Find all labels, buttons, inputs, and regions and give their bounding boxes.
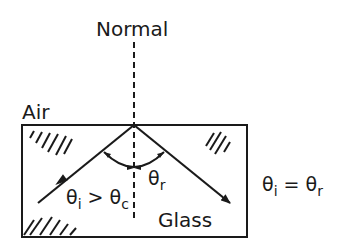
normal-label: Normal — [96, 17, 168, 41]
hatching-top-left — [30, 131, 72, 155]
hatching-bottom-left — [24, 217, 76, 235]
incidence-condition-label: θi > θc — [66, 186, 129, 212]
glass-label: Glass — [158, 208, 212, 232]
tir-diagram: Normal Air Glass θr θi > θc θi = θr — [0, 0, 341, 247]
theta-r-label: θr — [148, 167, 166, 193]
glass-block — [22, 125, 247, 237]
equality-label: θi = θr — [262, 173, 323, 199]
air-label: Air — [22, 100, 50, 124]
hatching-top-right — [206, 132, 230, 154]
